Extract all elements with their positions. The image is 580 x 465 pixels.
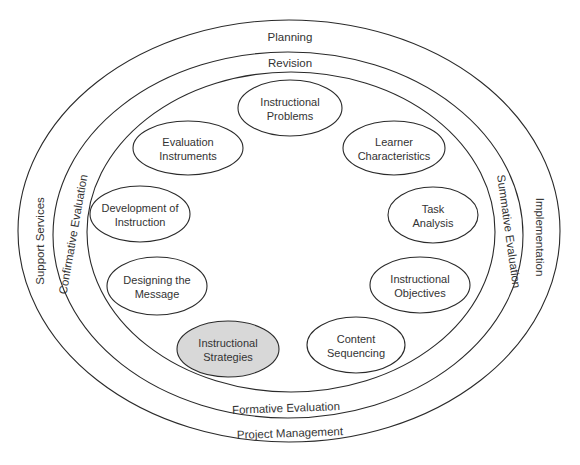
node-task-analysis: TaskAnalysis — [388, 187, 478, 243]
ring-label-planning: Planning — [268, 31, 313, 43]
ring-label-support-services: Support Services — [34, 197, 46, 285]
node-instructional-problems: InstructionalProblems — [238, 80, 342, 136]
node-evaluation-instruments: EvaluationInstruments — [133, 121, 243, 175]
ring-label-summative-evaluation: Summative Evaluation — [495, 174, 523, 289]
ring-label-formative-evaluation: Formative Evaluation — [232, 400, 340, 416]
ring-label-confirmative-evaluation: Confirmative Evaluation — [57, 173, 90, 295]
node-learner-characteristics: LearnerCharacteristics — [343, 121, 445, 175]
ring-label-revision: Revision — [268, 57, 312, 69]
ring-label-project-management: Project Management — [237, 425, 344, 441]
node-development-of-instruction: Development ofInstruction — [90, 186, 190, 242]
node-designing-the-message: Designing theMessage — [107, 257, 207, 315]
ring-label-implementation: Implementation — [534, 198, 546, 277]
node-content-sequencing: ContentSequencing — [307, 317, 405, 373]
instructional-design-model-diagram: Planning Project Management Support Serv… — [0, 0, 580, 465]
process-nodes: InstructionalProblems LearnerCharacteris… — [90, 80, 478, 377]
node-instructional-strategies: InstructionalStrategies — [177, 321, 279, 377]
node-instructional-objectives: InstructionalObjectives — [370, 257, 470, 313]
